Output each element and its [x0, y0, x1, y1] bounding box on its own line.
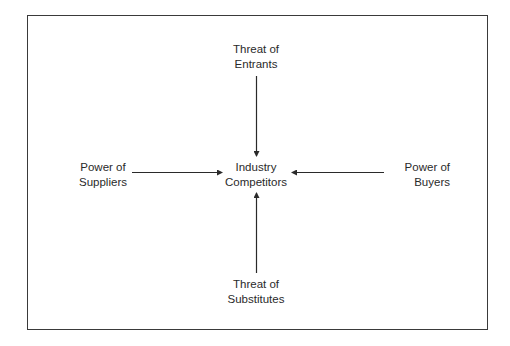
- node-threat-of-substitutes: Threat of Substitutes: [216, 277, 296, 307]
- node-power-of-buyers: Power of Buyers: [380, 160, 450, 190]
- node-label-line1: Power of: [68, 160, 138, 175]
- node-label-line2: Buyers: [380, 175, 450, 190]
- node-label-line2: Suppliers: [68, 175, 138, 190]
- node-label-line1: Power of: [380, 160, 450, 175]
- node-label-line2: Entrants: [216, 57, 296, 72]
- node-label-line1: Threat of: [216, 277, 296, 292]
- node-industry-competitors: Industry Competitors: [216, 160, 296, 190]
- node-power-of-suppliers: Power of Suppliers: [68, 160, 138, 190]
- node-label-line1: Industry: [216, 160, 296, 175]
- node-label-line1: Threat of: [216, 42, 296, 57]
- node-label-line2: Substitutes: [216, 292, 296, 307]
- node-threat-of-entrants: Threat of Entrants: [216, 42, 296, 72]
- node-label-line2: Competitors: [216, 175, 296, 190]
